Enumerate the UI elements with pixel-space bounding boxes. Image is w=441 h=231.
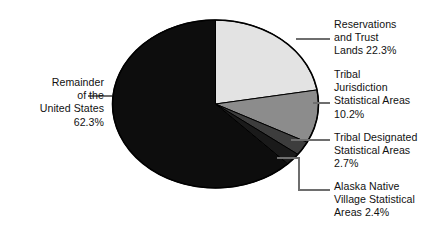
pie-label-alaska-native-village-statistical-areas: Alaska Native Village Statistical Areas … — [334, 180, 440, 220]
pie-chart-figure: Remainder of the United States 62.3% Res… — [0, 0, 441, 231]
pie-label-reservations-and-trust-lands: Reservations and Trust Lands 22.3% — [334, 18, 438, 58]
pie-label-tribal-jurisdiction-statistical-areas: Tribal Jurisdiction Statistical Areas 10… — [334, 68, 440, 121]
pie-label-remainder-of-the-united-states: Remainder of the United States 62.3% — [8, 76, 104, 129]
pie-slices — [113, 20, 319, 188]
pie-slice-reservations-and-trust-lands[interactable] — [216, 20, 318, 104]
pie-label-tribal-designated-statistical-areas: Tribal Designated Statistical Areas 2.7% — [334, 131, 440, 171]
